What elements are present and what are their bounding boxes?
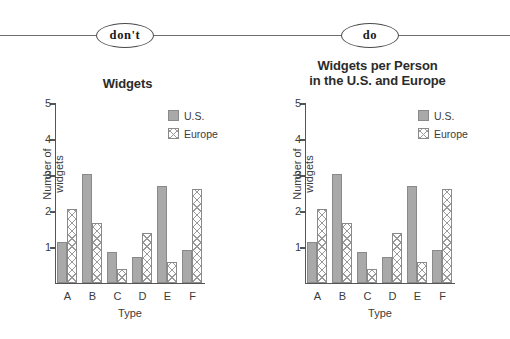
- y-axis-tick-label: 2: [35, 206, 51, 216]
- y-axis-tick-label: 1: [285, 242, 301, 252]
- y-axis-tick-label: 5: [35, 98, 51, 108]
- chart-title-line: in the U.S. and Europe: [250, 73, 505, 88]
- dont-badge-label: don't: [110, 28, 141, 43]
- bar-europe-D: [392, 233, 402, 283]
- bar-europe-B: [92, 223, 102, 283]
- bar-europe-C: [117, 269, 127, 283]
- y-axis-tick-label: 3: [35, 170, 51, 180]
- bar-us-B: [82, 174, 92, 283]
- y-axis-tick-label: 1: [35, 242, 51, 252]
- bar-europe-F: [442, 189, 452, 283]
- bar-us-A: [57, 242, 67, 283]
- bar-us-D: [132, 257, 142, 283]
- bar-us-E: [157, 186, 167, 283]
- x-axis-tick-label: C: [356, 290, 380, 302]
- chart-title-line: Widgets per Person: [250, 58, 505, 73]
- bar-europe-F: [192, 189, 202, 283]
- x-axis-tick-label: E: [156, 290, 180, 302]
- bar-europe-D: [142, 233, 152, 283]
- bar-us-E: [407, 186, 417, 283]
- chart-title-dont: Widgets: [0, 76, 255, 91]
- plot-area-dont: Number of widgets Type 12345ABCDEF: [55, 104, 205, 284]
- chart-panel-do: Widgets per Person in the U.S. and Europ…: [250, 56, 505, 326]
- bar-europe-A: [67, 209, 77, 283]
- bar-us-B: [332, 174, 342, 283]
- bar-europe-B: [342, 223, 352, 283]
- bar-us-F: [432, 250, 442, 283]
- x-axis-tick-label: D: [381, 290, 405, 302]
- plot-area-do: Number of widgets Type 12345ABCDEF: [305, 104, 455, 284]
- x-axis-tick-label: F: [431, 290, 455, 302]
- rule-segment-right: [393, 35, 510, 36]
- bar-us-C: [107, 252, 117, 283]
- bar-europe-E: [417, 262, 427, 283]
- bar-europe-C: [367, 269, 377, 283]
- y-axis-tick-label: 2: [285, 206, 301, 216]
- x-axis-tick-label: F: [181, 290, 205, 302]
- x-axis-title: Type: [305, 307, 455, 319]
- do-dont-divider: don't do: [0, 0, 510, 56]
- chart-title-do: Widgets per Person in the U.S. and Europ…: [250, 58, 505, 88]
- rule-segment-middle: [152, 35, 343, 36]
- x-axis-tick-label: D: [131, 290, 155, 302]
- y-axis-tick-label: 4: [285, 134, 301, 144]
- chart-title-line: Widgets: [0, 76, 255, 91]
- do-badge-label: do: [363, 28, 377, 43]
- y-axis-tick-label: 4: [35, 134, 51, 144]
- bar-us-D: [382, 257, 392, 283]
- rule-segment-left: [0, 35, 98, 36]
- x-axis-tick-label: B: [81, 290, 105, 302]
- dont-badge: don't: [96, 23, 154, 48]
- do-badge: do: [341, 23, 399, 48]
- x-axis-tick-label: C: [106, 290, 130, 302]
- x-axis-title: Type: [55, 307, 205, 319]
- bar-us-F: [182, 250, 192, 283]
- y-axis-tick-label: 3: [285, 170, 301, 180]
- bar-us-A: [307, 242, 317, 283]
- bar-europe-A: [317, 209, 327, 283]
- bar-us-C: [357, 252, 367, 283]
- x-axis-tick-label: B: [331, 290, 355, 302]
- x-axis-tick-label: A: [56, 290, 80, 302]
- chart-panel-dont: Widgets U.S. Europe Number of widgets Ty…: [0, 56, 255, 326]
- x-axis-tick-label: E: [406, 290, 430, 302]
- y-axis-tick-label: 5: [285, 98, 301, 108]
- bar-europe-E: [167, 262, 177, 283]
- x-axis-tick-label: A: [306, 290, 330, 302]
